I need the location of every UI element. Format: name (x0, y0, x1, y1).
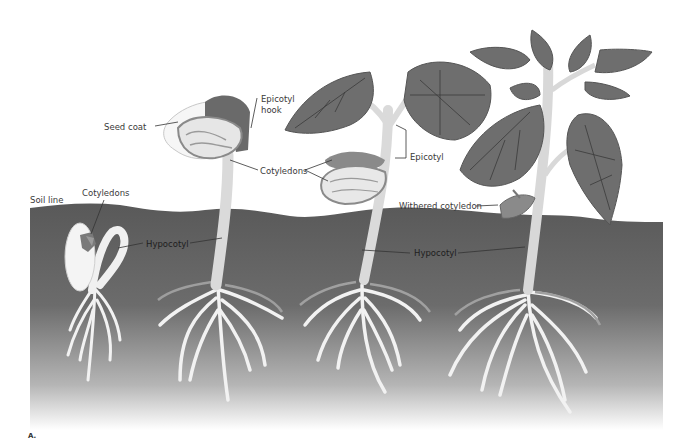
label-cotyledons-stage1: Cotyledons (82, 188, 130, 198)
label-epicotyl-hook-line1: Epicotyl (261, 94, 295, 104)
label-hypocotyl-stage3-4: Hypocotyl (414, 248, 457, 258)
panel-letter: A. (28, 432, 36, 440)
label-withered-cotyledon: Withered cotyledon (399, 201, 482, 211)
diagram-illustration (0, 0, 687, 446)
label-cotyledons-stage2: Cotyledons (260, 166, 308, 176)
label-epicotyl: Epicotyl (410, 152, 444, 162)
label-epicotyl-hook-line2: hook (261, 105, 282, 115)
label-soil-line: Soil line (30, 195, 63, 205)
label-seed-coat: Seed coat (104, 122, 146, 132)
label-hypocotyl-stage1: Hypocotyl (146, 239, 189, 249)
germination-diagram: Soil line Cotyledons Hypocotyl Seed coat… (0, 0, 687, 446)
